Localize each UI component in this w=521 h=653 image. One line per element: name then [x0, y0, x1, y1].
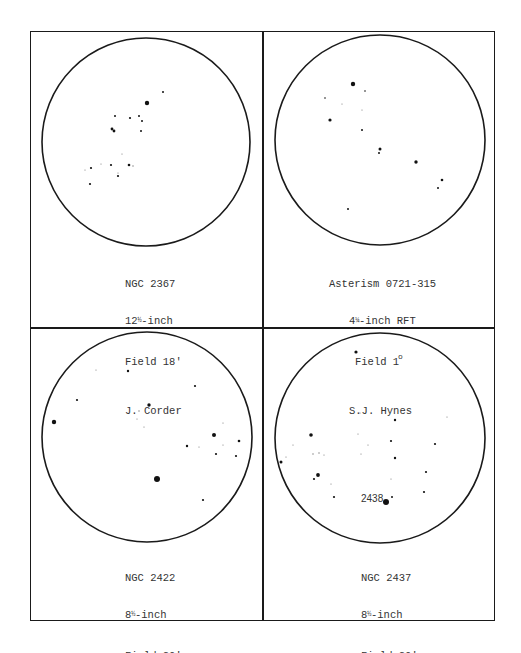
star: [235, 455, 237, 457]
star: [316, 473, 320, 477]
field-of-view: Field 20': [125, 645, 181, 653]
star: [117, 172, 118, 173]
star: [394, 457, 396, 459]
star: [76, 399, 78, 401]
star: [360, 453, 361, 454]
field-asterism-0721-315: [275, 35, 485, 245]
star: [379, 148, 382, 151]
star: [347, 208, 349, 210]
star: [141, 120, 143, 122]
star: [446, 416, 447, 417]
star: [434, 443, 436, 445]
field-of-view: Field 1o: [329, 351, 436, 368]
star: [212, 433, 216, 437]
star: [414, 160, 417, 163]
star: [378, 152, 380, 154]
star: [52, 420, 56, 424]
star: [425, 471, 427, 473]
star: [318, 452, 319, 453]
telescope-aperture: 4¼-inch RFT: [329, 314, 436, 327]
star: [198, 446, 199, 447]
star: [309, 433, 313, 437]
star: [238, 440, 241, 443]
telescope-aperture: 8½-inch: [361, 608, 417, 621]
observer-name: J. Corder: [125, 405, 182, 417]
degree-symbol: o: [398, 352, 403, 361]
star: [312, 453, 313, 454]
star: [323, 454, 324, 455]
telescope-aperture: 8½-inch: [125, 608, 181, 621]
caption-ngc2437: NGC 2437 8½-inch Field 20' S.J. Hynes: [361, 548, 417, 653]
star: [423, 491, 425, 493]
star: [162, 91, 164, 93]
star: [100, 163, 101, 164]
object-name: NGC 2422: [125, 572, 181, 584]
star: [128, 164, 131, 167]
star: [390, 440, 392, 442]
caption-ngc2367: NGC 2367 12½-inch Field 18' J. Corder: [125, 254, 182, 429]
star: [280, 461, 283, 464]
star: [383, 499, 389, 505]
star: [313, 478, 315, 480]
observer-name: S.J. Hynes: [329, 405, 436, 417]
field-of-view: Field 18': [125, 351, 182, 368]
star: [140, 130, 142, 132]
object-name: NGC 2367: [125, 278, 182, 290]
star: [328, 118, 331, 121]
telescope-aperture: 12½-inch: [125, 314, 182, 327]
star: [390, 478, 391, 479]
star: [202, 499, 204, 501]
star: [113, 130, 116, 133]
star: [341, 103, 342, 104]
star: [351, 82, 355, 86]
star: [154, 476, 160, 482]
star: [186, 445, 188, 447]
star: [292, 444, 293, 445]
caption-asterism: Asterism 0721-315 4¼-inch RFT Field 1o S…: [329, 254, 436, 429]
star: [95, 369, 96, 370]
object-name: Asterism 0721-315: [329, 278, 436, 290]
star: [111, 128, 114, 131]
star: [110, 164, 112, 166]
star: [333, 496, 335, 498]
star: [132, 165, 133, 166]
star: [84, 169, 85, 170]
star: [330, 483, 331, 484]
star: [441, 179, 444, 182]
star: [437, 187, 439, 189]
star: [391, 496, 393, 498]
star: [138, 115, 140, 117]
eyepiece-field-circle: [42, 38, 250, 246]
star: [222, 444, 223, 445]
star: [357, 433, 358, 434]
star: [145, 101, 149, 105]
star: [89, 183, 91, 185]
star: [90, 167, 92, 169]
star: [285, 456, 286, 457]
star: [361, 129, 363, 131]
annotation-ngc2438: 2438: [361, 493, 383, 504]
star: [114, 115, 116, 117]
star: [367, 444, 368, 445]
star: [117, 175, 119, 177]
star: [222, 422, 223, 423]
star: [194, 385, 196, 387]
object-name: NGC 2437: [361, 572, 417, 584]
star: [364, 90, 366, 92]
star: [215, 453, 217, 455]
star: [324, 97, 326, 99]
field-of-view: Field 20': [361, 645, 417, 653]
star-field-drawings: [0, 0, 521, 653]
star: [361, 109, 362, 110]
eyepiece-field-circle: [275, 35, 485, 245]
star: [129, 117, 131, 119]
star: [121, 153, 122, 154]
field-ngc2367: [42, 38, 250, 246]
caption-ngc2422: NGC 2422 8½-inch Field 20' S.J. Hynes: [125, 548, 181, 653]
